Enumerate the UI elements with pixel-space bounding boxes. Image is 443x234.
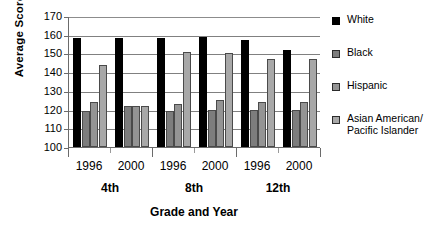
bar xyxy=(216,100,224,147)
bar-group xyxy=(153,17,195,147)
bar xyxy=(208,110,216,147)
bar-group xyxy=(237,17,279,147)
legend-item[interactable]: Asian American/Pacific Islander xyxy=(332,115,440,141)
bar xyxy=(115,38,123,147)
x-tick-minor xyxy=(194,148,195,153)
bar xyxy=(99,65,107,147)
legend-swatch-icon xyxy=(332,17,340,25)
legend-swatch-icon xyxy=(332,83,340,91)
bar xyxy=(250,110,258,147)
bar-series-container xyxy=(69,17,320,147)
bar-chart: Average Score 170160150140130120110100 1… xyxy=(0,0,443,234)
legend-label: White xyxy=(347,14,442,26)
bar xyxy=(241,40,249,147)
bar xyxy=(90,102,98,147)
x-tick-label-year: 2000 xyxy=(108,160,154,173)
bar xyxy=(183,52,191,147)
x-group-label: 8th xyxy=(159,182,229,195)
plot-area xyxy=(68,17,320,148)
y-tick-label: 170 xyxy=(32,11,62,22)
bar xyxy=(166,111,174,147)
bar xyxy=(157,38,165,147)
legend-label: Hispanic xyxy=(347,80,442,92)
legend-item[interactable]: White xyxy=(332,16,440,42)
bar xyxy=(199,37,207,147)
legend-label-line2: Pacific Islander xyxy=(347,124,418,136)
bar xyxy=(174,104,182,147)
x-tick-label-year: 2000 xyxy=(276,160,322,173)
x-group-label: 4th xyxy=(75,182,145,195)
bar xyxy=(283,50,291,147)
bar xyxy=(267,59,275,147)
bar xyxy=(82,111,90,147)
x-tick-major xyxy=(68,148,69,157)
y-tick-label: 110 xyxy=(32,123,62,134)
x-axis-title: Grade and Year xyxy=(68,205,320,219)
legend-label: Black xyxy=(347,47,442,59)
x-tick-major xyxy=(152,148,153,157)
x-tick-major xyxy=(320,148,321,157)
bar-group xyxy=(279,17,321,147)
x-tick-label-year: 1996 xyxy=(66,160,112,173)
bar xyxy=(73,38,81,147)
x-tick-label-year: 1996 xyxy=(150,160,196,173)
y-tick-label: 120 xyxy=(32,105,62,116)
bar xyxy=(292,110,300,147)
x-tick-label-year: 2000 xyxy=(192,160,238,173)
x-tick-minor xyxy=(110,148,111,153)
legend-swatch-icon xyxy=(332,116,340,124)
bar-group xyxy=(69,17,111,147)
bar xyxy=(258,102,266,147)
bar xyxy=(124,106,132,147)
legend-swatch-icon xyxy=(332,50,340,58)
y-tick-label: 100 xyxy=(32,142,62,153)
legend-label: Asian American/Pacific Islander xyxy=(347,113,442,136)
y-tick-label: 140 xyxy=(32,67,62,78)
x-tick-minor xyxy=(278,148,279,153)
bar xyxy=(132,106,140,147)
y-tick-label: 150 xyxy=(32,48,62,59)
y-tick-label: 130 xyxy=(32,86,62,97)
bar xyxy=(300,102,308,147)
y-axis-title: Average Score xyxy=(13,0,31,100)
bar-group xyxy=(195,17,237,147)
bar-group xyxy=(111,17,153,147)
bar xyxy=(141,106,149,147)
x-tick-major xyxy=(236,148,237,157)
y-tick-label: 160 xyxy=(32,30,62,41)
bar xyxy=(309,59,317,147)
x-group-label: 12th xyxy=(243,182,313,195)
x-tick-label-year: 1996 xyxy=(234,160,280,173)
bar xyxy=(225,53,233,147)
legend-item[interactable]: Black xyxy=(332,49,440,75)
legend-item[interactable]: Hispanic xyxy=(332,82,440,108)
